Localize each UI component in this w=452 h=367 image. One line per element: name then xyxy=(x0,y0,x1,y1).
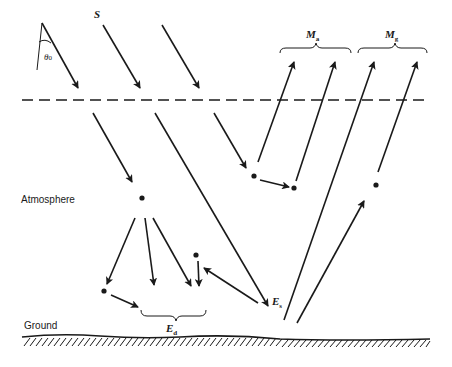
scatter-to-ground-1 xyxy=(111,295,138,307)
particle-1 xyxy=(139,195,144,200)
particles xyxy=(101,173,378,293)
diffuse-ray-3 xyxy=(153,218,191,286)
ground-radiance-label: Mg xyxy=(385,28,398,43)
ground-radiance-ray-2 xyxy=(378,62,417,172)
particle-3 xyxy=(291,185,296,190)
particle-6 xyxy=(193,252,198,257)
path-radiance-brace xyxy=(280,43,351,53)
diffuse-irradiance-label: Ed xyxy=(166,322,177,337)
path-radiance-ray-2 xyxy=(296,62,335,181)
ray-to-scatter-1 xyxy=(93,113,132,182)
direct-beam xyxy=(155,113,268,306)
scatter-down-2 xyxy=(198,261,199,286)
diffuse-ray-1 xyxy=(107,218,135,284)
particle-5 xyxy=(101,288,106,293)
radiation-diagram xyxy=(0,0,452,367)
ground-reflected-to-scatter xyxy=(204,268,258,303)
solar-ray-3 xyxy=(162,25,199,88)
zenith-angle-arc xyxy=(39,40,51,43)
atmosphere-label: Atmosphere xyxy=(21,194,75,205)
path-radiance-ray-1 xyxy=(258,62,294,162)
particle-4 xyxy=(373,182,378,187)
scatter-to-scatter xyxy=(260,180,289,187)
ground-to-scatter xyxy=(297,201,364,323)
particle-2 xyxy=(251,173,256,178)
zenith-angle-label: θ0 xyxy=(44,52,52,62)
diffuse-irradiance-brace xyxy=(141,310,206,321)
zenith-line xyxy=(37,23,42,70)
direct-irradiance-label: Es xyxy=(272,295,282,310)
ground-radiance-brace xyxy=(358,43,427,53)
diffuse-ray-2 xyxy=(145,218,154,285)
ground-label: Ground xyxy=(24,320,57,331)
solar-ray-2 xyxy=(103,25,140,88)
source-label: S xyxy=(94,8,100,20)
ray-to-scatter-2 xyxy=(214,113,246,168)
path-radiance-label: Ma xyxy=(306,28,319,43)
